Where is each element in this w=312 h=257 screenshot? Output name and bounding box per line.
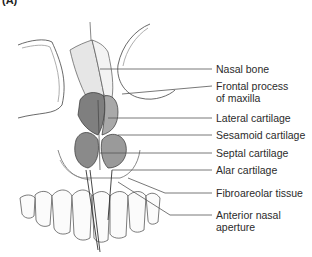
panel-label: (A) — [2, 0, 17, 6]
nasal-anatomy-figure: (A) Nasal bone Frontal process of maxill… — [0, 0, 312, 257]
cartilages — [75, 93, 127, 170]
label-septal-cartilage: Septal cartilage — [216, 147, 288, 159]
label-frontal-process: Frontal process of maxilla — [216, 80, 288, 104]
right-orbit — [118, 24, 175, 99]
left-orbit — [18, 40, 64, 118]
fibroareolar-region — [58, 150, 140, 180]
nasal-bones — [70, 22, 113, 100]
label-sesamoid-cartilage: Sesamoid cartilage — [216, 129, 305, 141]
label-lateral-cartilage: Lateral cartilage — [216, 112, 291, 124]
label-fibroareolar-tissue: Fibroareolar tissue — [216, 187, 303, 199]
label-alar-cartilage: Alar cartilage — [216, 164, 277, 176]
label-nasal-bone: Nasal bone — [216, 63, 269, 75]
label-anterior-nasal-aperture: Anterior nasal aperture — [216, 209, 281, 233]
